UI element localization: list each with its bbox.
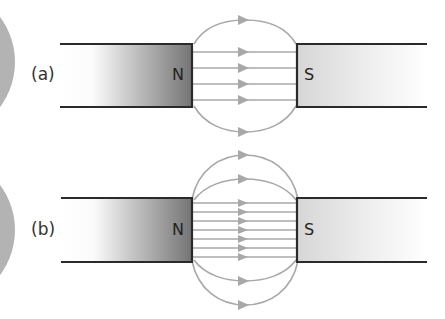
south-magnet-a	[297, 44, 427, 107]
magnetic-field-diagram	[0, 0, 445, 319]
south-pole-label-a: S	[304, 65, 314, 84]
field-lines-a	[192, 20, 298, 132]
panel-label-b: (b)	[31, 219, 55, 239]
field-arrows-b	[238, 150, 249, 310]
panel-label-a: (a)	[31, 64, 55, 84]
panel-a	[60, 15, 427, 137]
field-arrows-a	[238, 15, 249, 137]
side-disc-top	[0, 0, 15, 137]
panel-b	[61, 150, 427, 310]
north-pole-label-a: N	[172, 65, 184, 84]
north-pole-label-b: N	[172, 220, 184, 239]
side-disc-bottom	[0, 155, 15, 305]
south-magnet-b	[297, 198, 427, 262]
south-pole-label-b: S	[304, 220, 314, 239]
